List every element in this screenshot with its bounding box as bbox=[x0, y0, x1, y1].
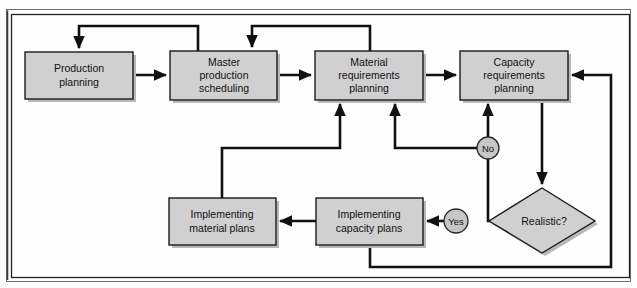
edge-material-feedback-to-master bbox=[252, 26, 370, 51]
node-no-branch[interactable]: No bbox=[477, 137, 499, 159]
implementing-material-plans-label-line2: material plans bbox=[189, 222, 254, 234]
node-capacity-requirements-planning[interactable]: Capacity requirements planning bbox=[460, 51, 571, 103]
edge-no-to-material bbox=[395, 104, 477, 148]
node-production-planning[interactable]: Production planning bbox=[25, 52, 136, 102]
realistic-decision-label: Realistic? bbox=[521, 215, 567, 227]
capacity-requirements-planning-label-line3: planning bbox=[494, 82, 534, 94]
node-implementing-capacity-plans[interactable]: Implementing capacity plans bbox=[316, 198, 426, 248]
flowchart-svg: Production planning Master production sc… bbox=[0, 0, 637, 288]
master-production-scheduling-label-line2: production bbox=[199, 69, 248, 81]
production-planning-label-line1: Production bbox=[54, 62, 104, 74]
master-production-scheduling-label-line1: Master bbox=[208, 56, 241, 68]
implementing-capacity-plans-label-line2: capacity plans bbox=[336, 222, 403, 234]
material-requirements-planning-label-line2: requirements bbox=[338, 69, 399, 81]
no-branch-label: No bbox=[482, 143, 494, 154]
edge-master-feedback-to-production bbox=[79, 26, 198, 51]
master-production-scheduling-label-line3: scheduling bbox=[199, 82, 249, 94]
node-material-requirements-planning[interactable]: Material requirements planning bbox=[315, 51, 426, 103]
capacity-requirements-planning-label-line2: requirements bbox=[483, 69, 544, 81]
diagram-canvas: Production planning Master production sc… bbox=[0, 0, 637, 288]
capacity-requirements-planning-label-line1: Capacity bbox=[494, 56, 536, 68]
yes-branch-label: Yes bbox=[448, 216, 464, 227]
material-requirements-planning-label-line1: Material bbox=[350, 56, 387, 68]
edge-implementing-material-to-material bbox=[222, 104, 340, 198]
material-requirements-planning-label-line3: planning bbox=[349, 82, 389, 94]
edge-realistic-no-to-capacity bbox=[488, 104, 490, 221]
implementing-capacity-plans-label-line1: Implementing bbox=[337, 208, 400, 220]
node-implementing-material-plans[interactable]: Implementing material plans bbox=[169, 198, 279, 248]
node-realistic-decision[interactable]: Realistic? bbox=[489, 188, 598, 256]
node-master-production-scheduling[interactable]: Master production scheduling bbox=[170, 51, 280, 103]
node-yes-branch[interactable]: Yes bbox=[444, 209, 468, 233]
production-planning-label-line2: planning bbox=[59, 76, 99, 88]
implementing-material-plans-label-line1: Implementing bbox=[190, 208, 253, 220]
